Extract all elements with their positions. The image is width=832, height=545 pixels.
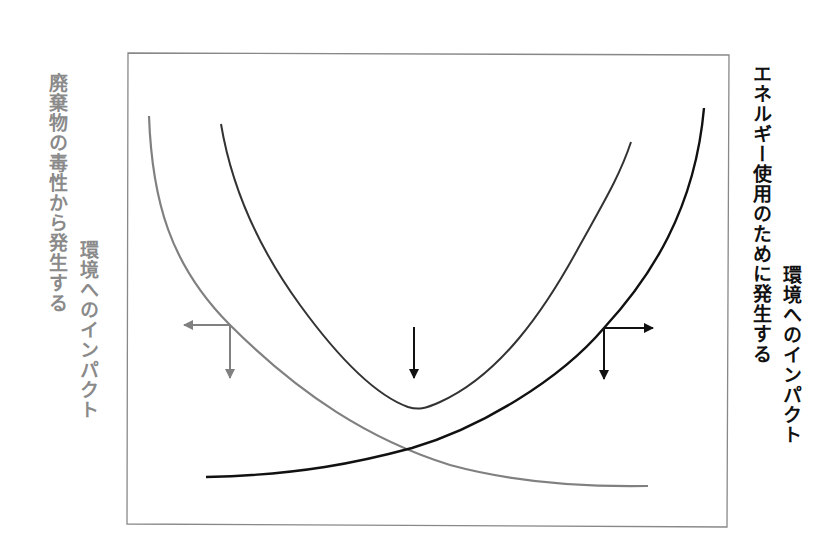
- right-axis-arrow: [604, 328, 653, 379]
- total-impact-curve: [221, 124, 631, 409]
- chart-frame: [127, 53, 729, 527]
- energy-use-curve: [206, 108, 704, 477]
- right-axis-label-line2: 環境へのインパクト: [781, 265, 800, 445]
- waste-toxicity-curve: [149, 116, 648, 486]
- left-axis-label-line1: 廃棄物の毒性から発生する: [47, 73, 66, 313]
- left-axis-arrow: [184, 325, 230, 378]
- tradeoff-diagram: [0, 0, 832, 545]
- left-axis-label-line2: 環境へのインパクト: [78, 240, 97, 420]
- right-axis-label-line1: エネルギー使用のために発生する: [751, 64, 770, 364]
